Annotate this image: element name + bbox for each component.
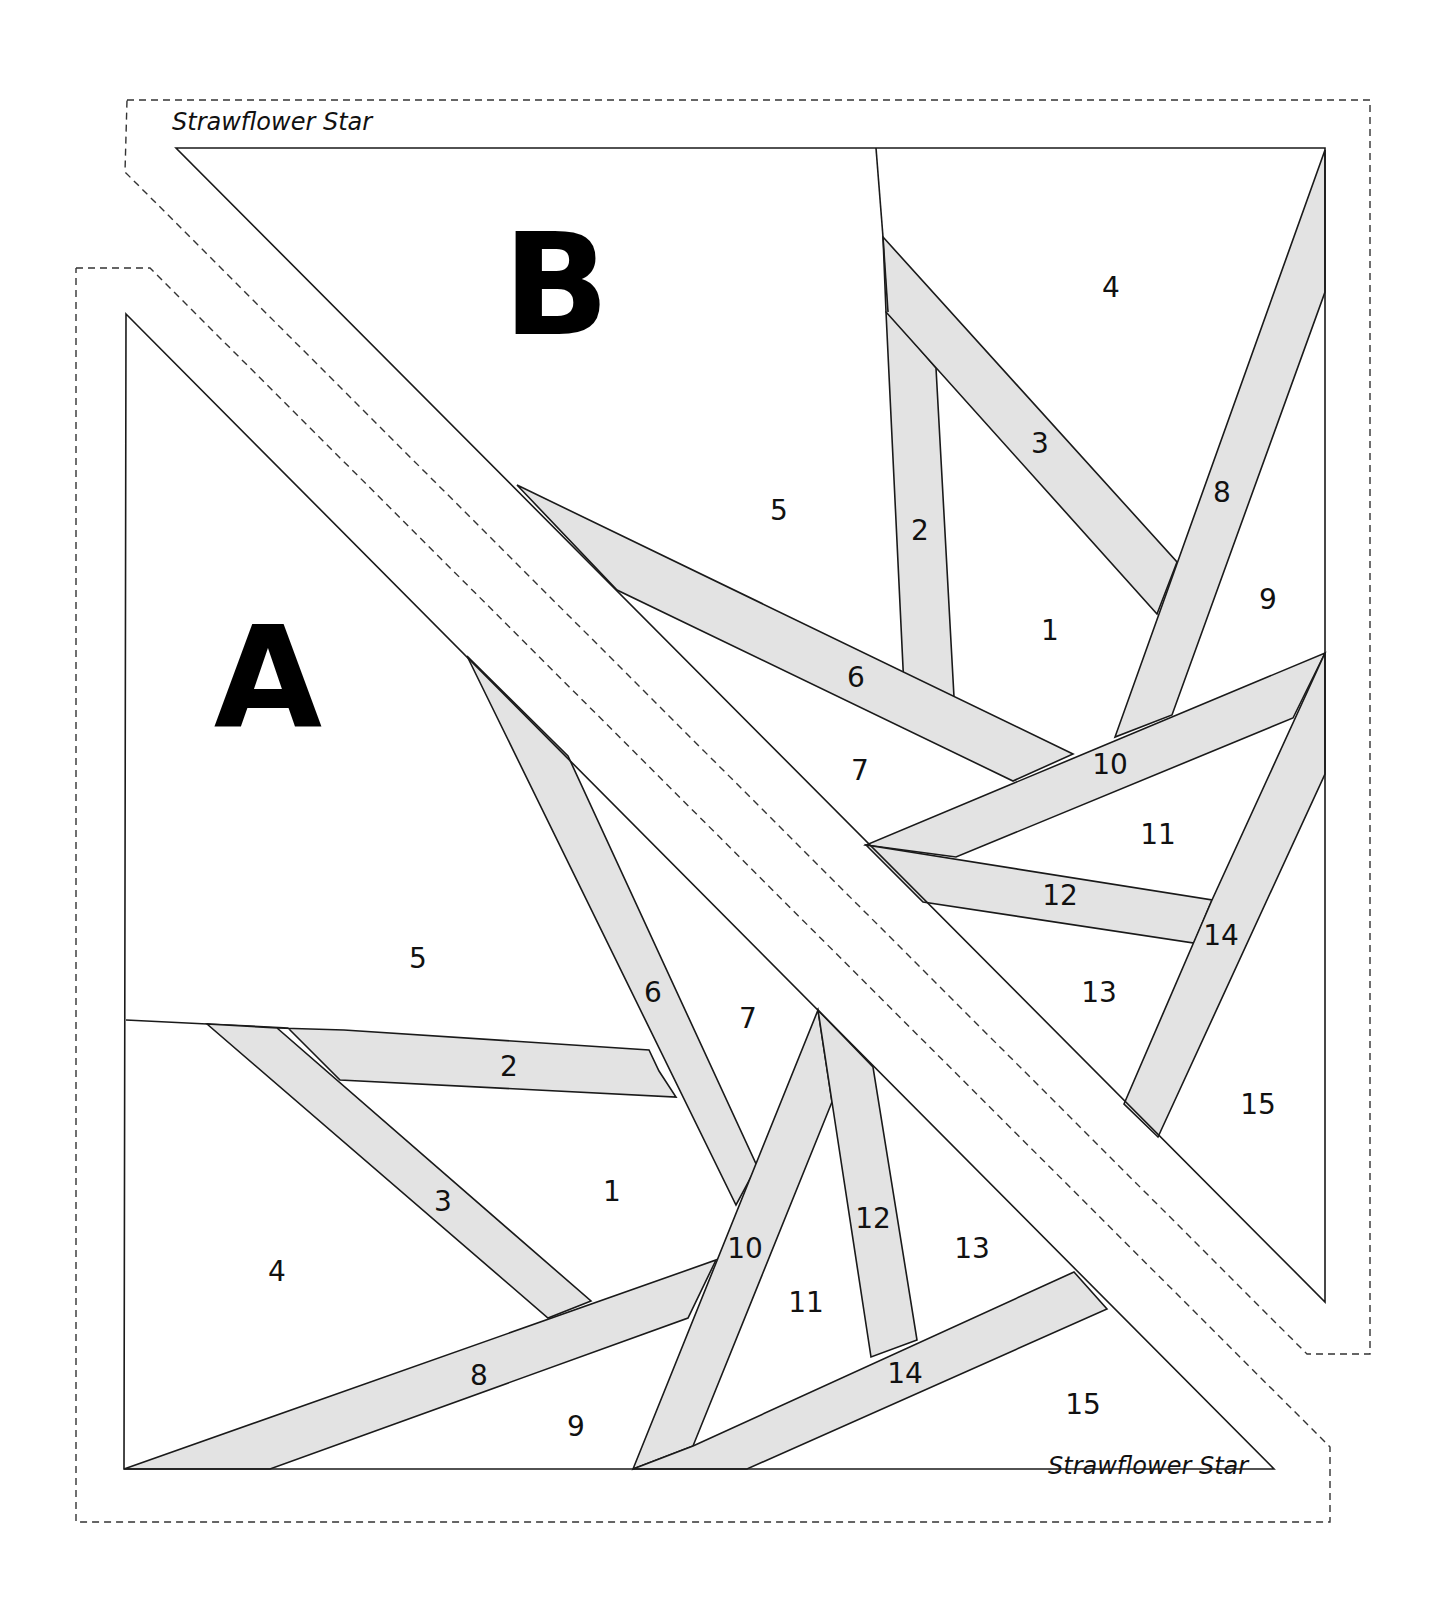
block-b-piece-11: 11 — [1140, 818, 1176, 851]
block-b-piece-14: 14 — [1203, 919, 1239, 952]
block-b-piece-15: 15 — [1240, 1088, 1276, 1121]
block-b-piece-6-strip — [517, 485, 1073, 781]
block-a-piece-10: 10 — [727, 1232, 763, 1265]
block-a-piece-12: 12 — [855, 1202, 891, 1235]
block-a-piece-14: 14 — [887, 1357, 923, 1390]
block-b-piece-1: 1 — [1041, 614, 1059, 647]
block-b-piece-3: 3 — [1031, 427, 1049, 460]
block-b-piece-9: 9 — [1259, 583, 1277, 616]
block-a-piece-5: 5 — [409, 942, 427, 975]
block-a-piece-9: 9 — [567, 1410, 585, 1443]
block-a-seam — [126, 1020, 207, 1024]
block-a-piece-13: 13 — [954, 1232, 990, 1265]
block-a-piece-6-strip — [467, 656, 757, 1205]
block-b-piece-7: 7 — [851, 754, 869, 787]
block-b-piece-5: 5 — [770, 494, 788, 527]
block-a-piece-4: 4 — [268, 1255, 286, 1288]
block-b-piece-2: 2 — [911, 514, 929, 547]
block-a-piece-6: 6 — [644, 976, 662, 1009]
block-a-piece-1: 1 — [603, 1175, 621, 1208]
block-b-label: B — [503, 204, 610, 367]
block-b-piece-6: 6 — [847, 661, 865, 694]
block-a-piece-12-strip — [818, 1010, 917, 1357]
block-b-piece-13: 13 — [1081, 976, 1117, 1009]
block-a-piece-7: 7 — [739, 1002, 757, 1035]
block-a-piece-15: 15 — [1065, 1388, 1101, 1421]
block-b-piece-8-strip — [1115, 150, 1325, 737]
block-a-piece-8-strip — [124, 1260, 716, 1469]
block-b-seam — [876, 148, 883, 237]
block-b-piece-4: 4 — [1102, 271, 1120, 304]
block-b-piece-12: 12 — [1042, 879, 1078, 912]
paper-piecing-pattern: B 1 2 3 4 5 6 7 8 9 10 11 12 13 14 15 A … — [0, 0, 1452, 1599]
block-a-piece-3: 3 — [434, 1185, 452, 1218]
block-a-piece-2: 2 — [500, 1050, 518, 1083]
block-a-piece-11: 11 — [788, 1286, 824, 1319]
block-a-piece-8: 8 — [470, 1359, 488, 1392]
block-b-piece-8: 8 — [1213, 476, 1231, 509]
block-a-label: A — [214, 597, 322, 760]
block-b-piece-10: 10 — [1092, 748, 1128, 781]
